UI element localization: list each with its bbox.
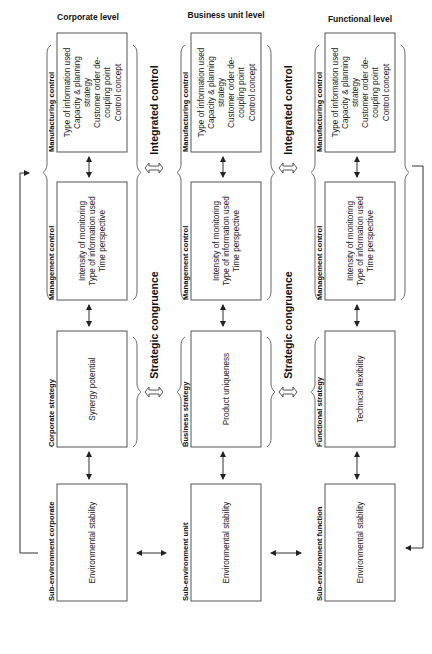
- box-text-line: coupling point: [103, 67, 112, 118]
- hollow-double-arrow-icon: [145, 387, 163, 397]
- box-text-line: strategy: [83, 77, 92, 107]
- box-text-line: Capacity & planning: [73, 56, 82, 129]
- box-label: Sub-environment corporate: [47, 501, 56, 601]
- box-label: Manufacturing control: [47, 72, 56, 152]
- curly-brace-icon: [133, 45, 141, 300]
- curly-brace-icon: [401, 45, 409, 300]
- box-text-line: Intensity of monitoring: [78, 201, 87, 282]
- feedback-arrow-left-icon: [20, 173, 38, 553]
- box-label: Management control: [315, 226, 324, 300]
- integrated-control-label: Integrated control: [282, 65, 294, 154]
- curly-brace-icon: [267, 45, 275, 300]
- box-text-line: Time perspective: [232, 210, 241, 272]
- box-text-line: Customer order de-: [361, 57, 370, 128]
- box-label: Management control: [47, 226, 56, 300]
- box-text-line: Type of information used: [63, 47, 72, 137]
- feedback-arrow-right-icon: [406, 166, 423, 548]
- business-unit-manufacturing-control-box: Manufacturing controlType of information…: [181, 33, 261, 152]
- business-unit-management-control-box: Management controlIntensity of monitorin…: [181, 182, 261, 300]
- corporate-sub-environment-box: Sub-environment corporateEnvironmental s…: [47, 484, 127, 601]
- box-label: Management control: [181, 226, 190, 300]
- business-unit-level-title: Business unit level: [188, 10, 265, 20]
- corporate-level-title: Corporate level: [57, 12, 119, 22]
- box-text-line: Environmental stability: [222, 501, 231, 584]
- box-text-line: Type of information used: [197, 47, 206, 137]
- box-text-line: Type of information used: [331, 47, 340, 137]
- strategic-congruence-label: Strategic congruence: [148, 271, 160, 379]
- box-text-line: Environmental stability: [88, 501, 97, 584]
- box-label: Corporate strategy: [47, 378, 56, 447]
- box-label: Manufacturing control: [181, 72, 190, 152]
- box-text-line: coupling point: [237, 67, 246, 118]
- box-text-line: Type of information used: [88, 196, 97, 286]
- functional-manufacturing-control-box: Manufacturing controlType of information…: [315, 33, 395, 152]
- box-text-line: Control concept: [382, 63, 391, 121]
- box-text-line: strategy: [217, 77, 226, 107]
- box-text-line: coupling point: [371, 67, 380, 118]
- box-text-line: Customer order de-: [227, 57, 236, 128]
- box-text-line: Capacity & planning: [207, 56, 216, 129]
- box-text-line: Synergy potential: [88, 357, 97, 420]
- box-text-line: Technical flexibility: [356, 354, 365, 422]
- box-label: Functional strategy: [315, 376, 324, 447]
- functional-strategy-box: Functional strategyTechnical flexibility: [315, 331, 395, 447]
- box-text-line: Product uniqueness: [222, 353, 231, 425]
- box-text-line: Intensity of monitoring: [346, 201, 355, 282]
- box-text-line: Control concept: [248, 63, 257, 121]
- hollow-double-arrow-icon: [279, 163, 297, 173]
- box-text-line: strategy: [351, 77, 360, 107]
- corporate-strategy-box: Corporate strategySynergy potential: [47, 331, 127, 447]
- business-unit-column: Manufacturing controlType of information…: [181, 33, 261, 601]
- integrated-control-label: Integrated control: [148, 65, 160, 154]
- box-text-line: Time perspective: [98, 210, 107, 272]
- corporate-manufacturing-control-box: Manufacturing controlType of information…: [47, 33, 127, 152]
- box-text-line: Type of information used: [222, 196, 231, 286]
- box-text-line: Time perspective: [366, 210, 375, 272]
- functional-management-control-box: Management controlIntensity of monitorin…: [315, 182, 395, 300]
- functional-sub-environment-box: Sub-environment functionEnvironmental st…: [315, 484, 395, 601]
- box-label: Manufacturing control: [315, 72, 324, 152]
- box-label: Sub-environment unit: [181, 522, 190, 601]
- corporate-column: Manufacturing controlType of information…: [47, 33, 127, 601]
- corporate-management-control-box: Management controlIntensity of monitorin…: [47, 182, 127, 300]
- control-framework-diagram: Corporate level Business unit level Func…: [0, 0, 432, 654]
- business-unit-strategy-box: Business strategyProduct uniqueness: [181, 331, 261, 447]
- functional-level-title: Functional level: [328, 14, 392, 24]
- hollow-double-arrow-icon: [145, 163, 163, 173]
- business-unit-sub-environment-box: Sub-environment unitEnvironmental stabil…: [181, 484, 261, 601]
- box-text-line: Capacity & planning: [341, 56, 350, 129]
- box-text-line: Intensity of monitoring: [212, 201, 221, 282]
- box-label: Business strategy: [181, 381, 190, 447]
- box-label: Sub-environment function: [315, 506, 324, 601]
- curly-brace-icon: [267, 337, 275, 447]
- hollow-double-arrow-icon: [279, 387, 297, 397]
- box-text-line: Environmental stability: [356, 501, 365, 584]
- curly-brace-icon: [133, 337, 141, 447]
- box-text-line: Customer order de-: [93, 57, 102, 128]
- strategic-congruence-label: Strategic congruence: [282, 271, 294, 379]
- functional-column: Manufacturing controlType of information…: [315, 33, 395, 601]
- box-text-line: Control concept: [114, 63, 123, 121]
- box-text-line: Type of information used: [356, 196, 365, 286]
